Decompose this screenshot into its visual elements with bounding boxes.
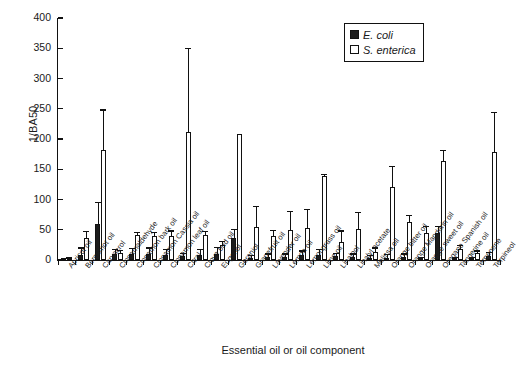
bar-group [228,18,245,260]
bar-s-enterica [237,134,242,260]
error-bar-stem [307,210,308,228]
y-axis-tick-label: 200 [33,132,51,145]
error-bar-cap [134,232,140,233]
error-bar-stem [409,216,410,222]
error-bar-cap [253,206,259,207]
x-axis-tick-mark [58,260,59,265]
error-bar-cap [100,109,106,110]
y-axis-tick-label: 250 [33,102,51,115]
error-bar-stem [137,233,138,235]
error-bar-cap [83,231,89,232]
bar-group [126,18,143,260]
error-bar-cap [440,150,446,151]
error-bar-stem [443,151,444,161]
y-axis-tick-label: 50 [39,223,51,236]
error-bar-stem [171,232,172,236]
error-bar-stem [494,113,495,152]
bar-group [58,18,75,260]
error-bar-stem [358,213,359,229]
y-axis-tick-label: 350 [33,41,51,54]
y-axis-tick-label: 0 [45,253,51,266]
error-bar-stem [205,232,206,234]
error-bar-stem [392,167,393,187]
error-bar-stem [341,232,342,243]
x-axis-title: Essential oil or oil component [0,344,514,356]
bar-group [211,18,228,260]
error-bar-stem [256,207,257,226]
error-bar-cap [491,112,497,113]
y-axis-tick-label: 100 [33,193,51,206]
bar-group [92,18,109,260]
error-bar-stem [324,175,325,176]
error-bar-stem [103,111,104,150]
error-bar-cap [287,211,293,212]
error-bar-cap [406,215,412,216]
bar-group [296,18,313,260]
bar-group [109,18,126,260]
plot-area: 050100150200250300350400 [57,18,500,261]
bar-group [245,18,262,260]
legend-item-e-coli: E. coli [350,27,416,42]
legend-label-s-enterica: S. enterica [363,44,416,56]
error-bar-cap [321,174,327,175]
legend-swatch-filled-square-icon [350,30,359,39]
y-axis-tick-label: 300 [33,72,51,85]
y-axis-title: 1/BA50 [27,79,39,169]
bar-group [279,18,296,260]
bar-group [262,18,279,260]
error-bar-cap [355,212,361,213]
bar-group [483,18,500,260]
error-bar-cap [304,209,310,210]
legend: E. coli S. enterica [344,23,424,62]
error-bar-stem [273,231,274,236]
legend-label-e-coli: E. coli [363,29,393,41]
bar-group [313,18,330,260]
error-bar-cap [185,48,191,49]
x-axis-title-text: Essential oil or oil component [221,344,364,356]
error-bar-stem [290,212,291,230]
y-axis-tick-label: 150 [33,162,51,175]
bar-group [75,18,92,260]
error-bar-stem [188,49,189,131]
error-bar-stem [64,259,65,260]
legend-swatch-open-square-icon [350,45,359,54]
y-axis-tick-label: 400 [33,11,51,24]
error-bar-cap [389,166,395,167]
error-bar-stem [98,203,99,224]
legend-item-s-enterica: S. enterica [350,42,416,57]
error-bar-cap [270,230,276,231]
